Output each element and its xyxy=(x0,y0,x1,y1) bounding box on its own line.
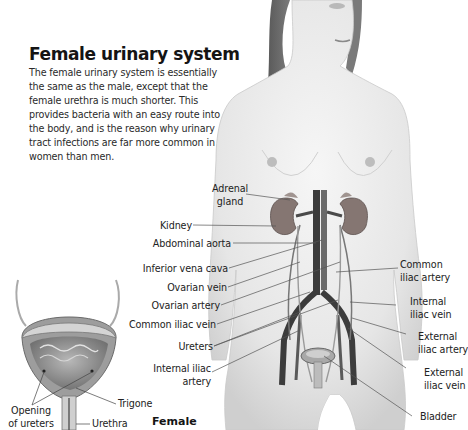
label-common-iliac-artery: Common iliac artery xyxy=(400,258,450,284)
label-ovarian-vein: Ovarian vein xyxy=(140,281,227,294)
label-external-iliac-vein: External iliac vein xyxy=(424,366,466,392)
label-ureters: Ureters xyxy=(150,340,213,353)
label-trigone: Trigone xyxy=(118,397,152,410)
label-internal-iliac-vein: Internal iliac vein xyxy=(410,295,452,321)
label-common-iliac-vein: Common iliac vein xyxy=(100,318,216,331)
label-ovarian-artery: Ovarian artery xyxy=(130,299,220,312)
label-kidney: Kidney xyxy=(150,219,192,232)
label-internal-iliac-artery: Internal iliac artery xyxy=(140,362,211,388)
label-abdominal-aorta: Abdominal aorta xyxy=(130,237,231,250)
label-inferior-vena-cava: Inferior vena cava xyxy=(120,262,228,275)
label-urethra: Urethra xyxy=(92,417,128,430)
intro-paragraph: The female urinary system is essentially… xyxy=(29,66,229,164)
label-external-iliac-artery: External iliac artery xyxy=(418,330,468,356)
label-opening-of-ureters: Opening of ureters xyxy=(2,404,60,430)
page-title: Female urinary system xyxy=(29,44,239,64)
figure-caption: Female xyxy=(152,415,197,428)
label-bladder: Bladder xyxy=(420,410,456,423)
label-adrenal-gland: Adrenal gland xyxy=(212,182,248,208)
